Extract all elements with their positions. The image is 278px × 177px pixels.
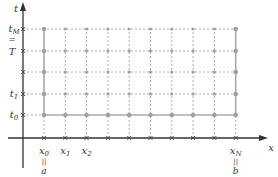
grid-node — [64, 92, 67, 95]
grid-node — [192, 92, 195, 95]
x-tick-label: x1 — [60, 145, 70, 158]
grid-node — [85, 92, 88, 95]
grid-node — [233, 70, 238, 75]
grid-node — [42, 49, 47, 54]
grid-node — [149, 70, 152, 73]
grid-node — [212, 113, 217, 118]
grid-node — [170, 113, 175, 118]
grid-node — [63, 113, 68, 118]
grid-node — [213, 70, 216, 73]
x-axis-label: x — [268, 142, 274, 153]
grid-node — [149, 92, 152, 95]
grid-node — [149, 27, 152, 30]
grid-node — [213, 27, 216, 30]
grid-node — [128, 27, 131, 30]
grid-node — [85, 70, 88, 73]
grid-node — [64, 49, 67, 52]
grid-node — [233, 92, 238, 97]
t-axis-arrow-icon — [20, 2, 26, 11]
x-tick-label: x2 — [82, 145, 93, 158]
grid-node — [233, 27, 238, 32]
grid-node — [106, 70, 109, 73]
grid-node — [106, 27, 109, 30]
grid-node — [84, 113, 89, 118]
grid-diagram: txx0||ax1x2xN||bt0t1tM=T — [0, 0, 278, 177]
grid-node — [42, 113, 47, 118]
grid-node — [213, 49, 216, 52]
grid-node — [233, 49, 238, 54]
grid-node — [106, 92, 109, 95]
grid-node — [149, 49, 152, 52]
grid-node — [128, 92, 131, 95]
grid-node — [192, 49, 195, 52]
x-tick-label: x0 — [39, 145, 50, 158]
grid-node — [106, 113, 111, 118]
grid-node — [192, 70, 195, 73]
equals-sign: = — [9, 35, 16, 44]
t-final-label: T — [9, 46, 17, 57]
x-boundary-label: a — [41, 166, 46, 176]
t-tick-label: t0 — [10, 109, 19, 122]
grid-node — [128, 70, 131, 73]
x-axis-arrow-icon — [259, 135, 268, 141]
equals-sign: || — [42, 158, 47, 166]
t-tick-label: t1 — [10, 88, 19, 101]
grid-node — [64, 70, 67, 73]
grid-node — [213, 92, 216, 95]
grid-node — [42, 92, 47, 97]
grid-node — [64, 27, 67, 30]
grid-node — [106, 49, 109, 52]
grid-node — [85, 49, 88, 52]
grid-node — [127, 113, 132, 118]
grid-node — [148, 113, 153, 118]
grid-node — [233, 113, 238, 118]
grid-node — [85, 27, 88, 30]
grid-node — [42, 27, 47, 32]
grid-node — [170, 49, 173, 52]
grid-node — [42, 70, 47, 75]
t-axis-label: t — [14, 3, 19, 14]
grid-node — [170, 92, 173, 95]
grid-node — [128, 49, 131, 52]
grid-node — [191, 113, 196, 118]
x-boundary-label: b — [233, 166, 239, 176]
x-tick-label: xN — [230, 145, 243, 158]
grid-node — [170, 70, 173, 73]
grid-node — [192, 27, 195, 30]
grid-node — [170, 27, 173, 30]
equals-sign: || — [233, 158, 238, 166]
